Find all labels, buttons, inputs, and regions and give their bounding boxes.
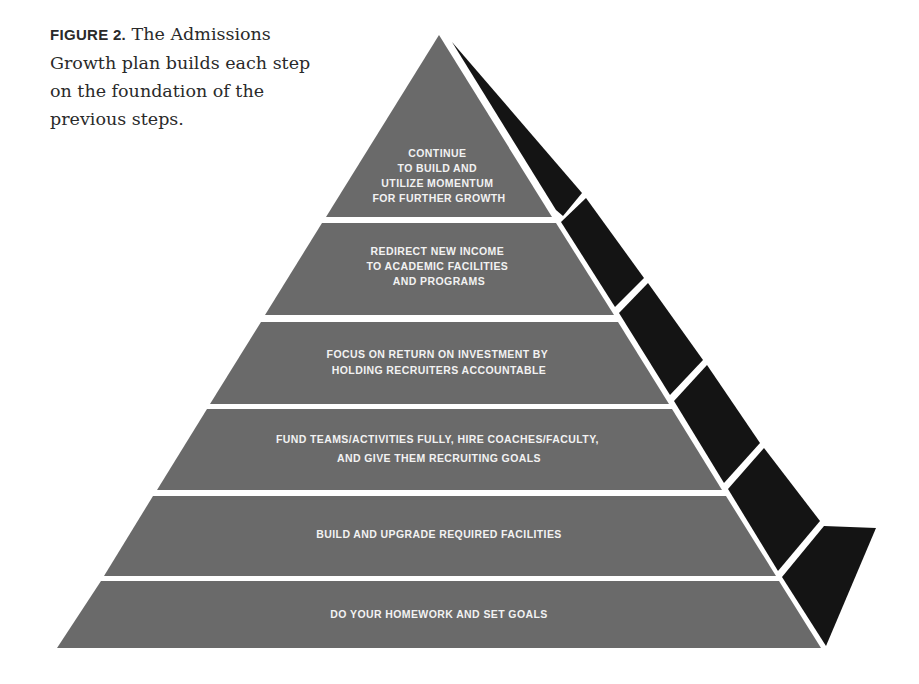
level-5-label: BUILD AND UPGRADE REQUIRED FACILITIES [316,528,561,540]
level-3-face [210,322,669,404]
growth-pyramid: CONTINUE TO BUILD AND UTILIZE MOMENTUM F… [0,0,919,684]
level-4-face [157,409,722,490]
pyramid-front-faces [57,35,821,648]
level-6-label: DO YOUR HOMEWORK AND SET GOALS [330,608,547,620]
